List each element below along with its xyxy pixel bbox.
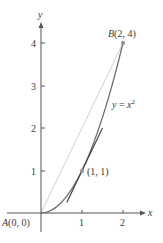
x-tick-label-1: 1	[79, 217, 84, 228]
point-p-label: (1, 1)	[87, 166, 109, 178]
point-b	[121, 41, 125, 45]
y-axis-arrow-icon	[39, 22, 44, 28]
point-a-coords: (0, 0)	[8, 217, 30, 229]
x-axis-label: x	[147, 207, 153, 218]
x-tick-label-2: 2	[120, 217, 125, 228]
diagram-canvas: y x 1 2 1 2 3 4 A(0, 0) B(2, 4) (1, 1) y…	[0, 0, 163, 243]
y-tick-label-4: 4	[31, 38, 36, 49]
y-ticks	[41, 43, 45, 171]
y-tick-label-2: 2	[31, 123, 36, 134]
x-axis-arrow-icon	[140, 211, 146, 216]
y-axis-label: y	[37, 9, 43, 20]
curve-label: y = x2	[111, 98, 136, 110]
point-b-coords: (2, 4)	[114, 28, 136, 40]
y-tick-label-3: 3	[31, 81, 36, 92]
secant-line	[41, 43, 123, 213]
point-p	[80, 169, 84, 173]
point-b-label: B(2, 4)	[108, 28, 136, 40]
point-a-label: A(0, 0)	[1, 217, 30, 229]
y-tick-label-1: 1	[31, 166, 36, 177]
